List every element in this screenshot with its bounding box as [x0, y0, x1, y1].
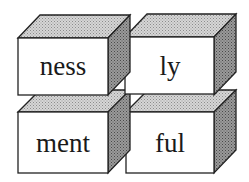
block-label: ful	[155, 128, 185, 158]
block-label: ly	[159, 51, 181, 81]
block-ness: ness	[18, 15, 130, 95]
suffix-blocks-diagram: ful ment ly ness	[0, 0, 249, 182]
block-ment: ment	[18, 90, 130, 173]
block-label: ment	[36, 128, 90, 158]
block-label: ness	[40, 51, 87, 81]
block-ly: ly	[125, 14, 236, 95]
block-ful: ful	[126, 90, 236, 173]
